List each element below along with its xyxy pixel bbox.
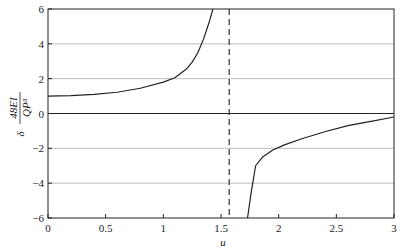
y-axis-label: δ48EIQP³ [7, 92, 32, 137]
y-label-numerator: 48EI [7, 96, 19, 119]
y-tick-label: 4 [39, 38, 45, 50]
x-tick-label: 3 [391, 222, 397, 234]
x-tick-label: 0 [45, 222, 51, 234]
y-tick-label: 6 [39, 3, 45, 15]
y-label-denominator: QP³ [20, 98, 32, 117]
y-label-prefix: δ [14, 131, 26, 137]
y-tick-label: 2 [39, 73, 45, 85]
x-tick-label: 1 [161, 222, 167, 234]
curve-branch-2 [248, 117, 394, 218]
curve-branch-1 [48, 9, 213, 96]
y-tick-label: −2 [32, 142, 44, 154]
y-tick-label: −6 [32, 212, 44, 224]
chart: 00.511.522.53 −6−4−20246 u δ48EIQP³ [0, 0, 403, 250]
y-tick-label: −4 [32, 177, 44, 189]
y-tick-label: 0 [39, 108, 45, 120]
x-tick-label: 0.5 [99, 222, 113, 234]
x-tick-label: 2 [276, 222, 282, 234]
x-axis-ticks: 00.511.522.53 [45, 214, 397, 234]
y-axis-ticks: −6−4−20246 [32, 3, 52, 224]
x-axis-label: u [220, 236, 226, 248]
x-tick-label: 2.5 [329, 222, 343, 234]
x-tick-label: 1.5 [214, 222, 228, 234]
